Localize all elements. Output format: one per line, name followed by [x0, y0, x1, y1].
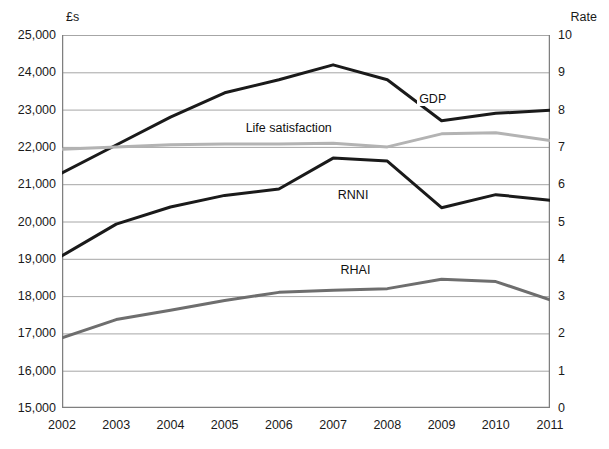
series-line-rhai: [62, 279, 550, 338]
left-axis-tick-label: 22,000: [18, 140, 56, 154]
x-axis-tick-label: 2006: [265, 418, 293, 432]
series-line-gdp: [62, 65, 550, 173]
right-axis-tick-label: 8: [558, 103, 565, 117]
left-axis-tick-label: 16,000: [18, 364, 56, 378]
left-axis-tick-label: 23,000: [18, 103, 56, 117]
x-axis-tick-label: 2007: [319, 418, 347, 432]
series-label-life-satisfaction: Life satisfaction: [244, 121, 334, 135]
x-axis-tick-label: 2003: [102, 418, 130, 432]
x-axis-tick-label: 2011: [537, 418, 564, 432]
left-axis-tick-label: 18,000: [18, 289, 56, 303]
plot-svg: [62, 35, 550, 408]
right-axis-tick-label: 9: [558, 65, 565, 79]
left-axis-tick-label: 25,000: [18, 28, 56, 42]
chart-container: £s Rate 15,00016,00017,00018,00019,00020…: [0, 0, 609, 449]
left-axis-tick-label: 15,000: [18, 401, 56, 415]
right-axis-tick-label: 6: [558, 177, 565, 191]
right-axis-tick-label: 2: [558, 326, 565, 340]
right-axis-tick-label: 7: [558, 140, 565, 154]
left-axis-tick-label: 17,000: [18, 326, 56, 340]
x-axis-tick-label: 2008: [373, 418, 401, 432]
x-axis-tick-label: 2010: [482, 418, 510, 432]
right-axis-tick-label: 5: [558, 215, 565, 229]
series-label-gdp: GDP: [417, 92, 448, 106]
series-label-rnni: RNNI: [336, 188, 371, 202]
right-axis-tick-label: 1: [558, 364, 565, 378]
series-label-rhai: RHAI: [339, 263, 373, 277]
right-axis-tick-label: 3: [558, 289, 565, 303]
left-axis-tick-label: 24,000: [18, 65, 56, 79]
x-axis-tick-label: 2005: [211, 418, 239, 432]
series-line-rnni: [62, 158, 550, 256]
plot-area: [62, 35, 550, 408]
left-axis-tick-label: 19,000: [18, 252, 56, 266]
x-axis-tick-label: 2009: [428, 418, 456, 432]
x-axis-tick-label: 2004: [157, 418, 185, 432]
left-axis-tick-label: 21,000: [18, 177, 56, 191]
right-axis-tick-label: 10: [558, 28, 572, 42]
left-axis-title: £s: [66, 10, 79, 24]
right-axis-tick-label: 4: [558, 252, 565, 266]
left-axis-tick-label: 20,000: [18, 215, 56, 229]
x-axis-tick-label: 2002: [48, 418, 76, 432]
right-axis-title: Rate: [571, 10, 597, 24]
right-axis-tick-label: 0: [558, 401, 565, 415]
